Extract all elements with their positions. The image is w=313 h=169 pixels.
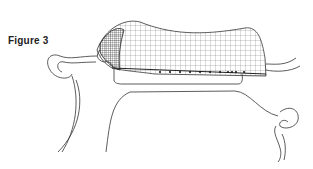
right-arm [266,58,296,64]
figure-illustration [0,0,313,169]
left-scroll [48,50,113,152]
wireframe-mesh [97,21,266,76]
lower-frame [106,91,278,152]
right-scroll [275,108,299,162]
